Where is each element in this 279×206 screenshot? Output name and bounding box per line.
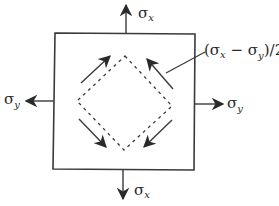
label-sigma-y-left: σy [4, 90, 20, 110]
shear-arrow-lower-right-icon [144, 120, 172, 147]
label-sigma-x-top: σx [138, 4, 154, 23]
stress-element-diagram: σx σx σy σy (σx − σy)/2 [0, 0, 279, 206]
label-max-shear: (σx − σy)/2 [204, 41, 279, 61]
label-sigma-y-right: σy [227, 94, 243, 114]
shear-arrow-upper-right-icon [147, 59, 173, 89]
rotated-element-dashed [77, 56, 172, 150]
shear-arrow-lower-left-icon [79, 119, 106, 147]
shear-arrow-upper-left-icon [81, 56, 110, 83]
shear-label-leader-line [166, 52, 205, 73]
label-sigma-x-bottom: σx [134, 181, 150, 200]
